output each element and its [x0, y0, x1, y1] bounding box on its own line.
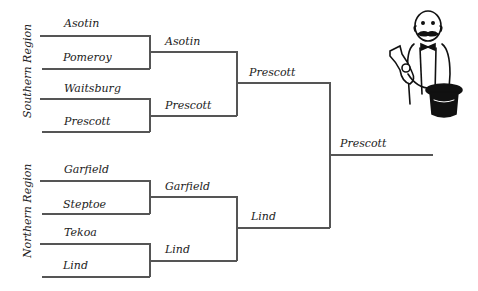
team-round1: Prescott [64, 115, 110, 128]
bracket-line [40, 180, 150, 182]
bracket-line [150, 51, 237, 53]
team-round2: Garfield [165, 180, 210, 193]
team-round2: Prescott [165, 99, 211, 112]
bracket-line [236, 196, 238, 261]
bracket-line [150, 196, 237, 198]
team-round1: Asotin [64, 17, 99, 30]
magician-illustration [378, 4, 474, 124]
team-round1: Pomeroy [63, 51, 112, 64]
bracket-line [40, 35, 150, 37]
team-round3: Prescott [249, 66, 295, 79]
team-round2: Asotin [165, 35, 200, 48]
region-label-northern: Northern Region [21, 164, 34, 258]
team-round1: Garfield [64, 163, 109, 176]
region-label-southern: Southern Region [21, 24, 34, 118]
bracket-line [42, 276, 150, 278]
team-round1: Lind [63, 259, 88, 272]
team-round2: Lind [165, 243, 190, 256]
bracket-line [40, 243, 150, 245]
bracket-line [237, 227, 330, 229]
bracket-line [237, 82, 330, 84]
team-round3: Lind [251, 210, 276, 223]
team-round1: Steptoe [63, 198, 106, 211]
bracket-line [150, 115, 237, 117]
bracket-line [42, 213, 150, 215]
bracket-line [150, 260, 237, 262]
champion: Prescott [340, 137, 386, 150]
bracket-line [40, 98, 150, 100]
team-round1: Tekoa [64, 226, 97, 239]
team-round1: Waitsburg [64, 82, 121, 95]
bracket-line [330, 154, 433, 156]
bracket-line [236, 51, 238, 116]
bracket-line [42, 68, 150, 70]
bracket-line [42, 131, 150, 133]
